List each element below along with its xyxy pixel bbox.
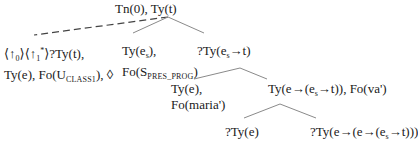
edge-pred-functor (240, 68, 267, 79)
edge-pred-subject (194, 68, 240, 79)
root-label: Tn(0), Ty(t) (115, 1, 177, 16)
unfixed-node: ⟨↑0⟩⟨↑1*⟩?Ty(t), Ty(e), Fo(UCLASS1), ◊ (4, 43, 113, 88)
edge-functor-object (244, 104, 280, 118)
subject-line-1: Ty(e), (171, 81, 225, 97)
event-node: Ty(es), Fo(SPRES_PROG) (122, 43, 198, 85)
event-line-1: Ty(es), (122, 43, 198, 64)
subject-node: Ty(e), Fo(maria') (171, 81, 225, 113)
functor-node: Ty(e→(es→t)), Fo(va') (268, 81, 387, 102)
object-node: ?Ty(e) (225, 124, 259, 140)
edge-functor-verb (280, 104, 316, 118)
root-node: Tn(0), Ty(t) (115, 1, 177, 17)
predicate-node: ?Ty(es→t) (197, 43, 250, 64)
subject-line-2: Fo(maria') (171, 97, 225, 113)
unfixed-line-2: Ty(e), Fo(UCLASS1), ◊ (4, 67, 113, 88)
verb-node: ?Ty(e→(e→(es→t))) (310, 124, 418, 145)
unfixed-line-1: ⟨↑0⟩⟨↑1*⟩?Ty(t), (4, 43, 113, 67)
edge-root-pred (168, 17, 204, 33)
